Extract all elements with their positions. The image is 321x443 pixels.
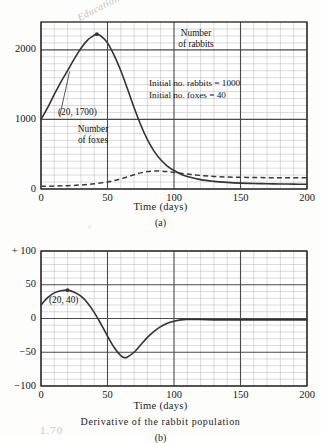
y-tick-label: 2000: [0, 43, 36, 54]
y-tick-label: −50: [0, 346, 36, 357]
rabbit-peak-point-label: (20, 1700): [58, 107, 97, 118]
y-tick-label: + 100: [0, 245, 36, 256]
plot-area-b: (20, 40): [41, 251, 307, 386]
x-tick-label: 100: [154, 389, 194, 400]
x-axis-title-a: Time (days): [0, 201, 321, 212]
x-axis-title-b: Time (days): [0, 400, 321, 411]
figure-b-caption: Derivative of the rabbit population: [0, 416, 321, 427]
curves-b: [41, 251, 307, 386]
initial-conditions-label: Initial no. rabbits = 1000 Initial no. f…: [149, 78, 240, 101]
plot-area-a: Number of rabbits Number of foxes Initia…: [41, 22, 307, 189]
figure-a: Number of rabbits Number of foxes Initia…: [0, 14, 321, 219]
x-tick-label: 0: [21, 389, 61, 400]
panel-label-a: (a): [0, 217, 321, 228]
x-tick-label: 50: [88, 389, 128, 400]
y-tick-label: 0: [0, 312, 36, 323]
x-tick-label: 200: [287, 389, 321, 400]
y-tick-label: 1000: [0, 113, 36, 124]
x-tick-label: 150: [221, 389, 261, 400]
derivative-point-label: (20, 40): [49, 295, 78, 306]
y-tick-label: 50: [0, 278, 36, 289]
panel-label-b: (b): [0, 432, 321, 443]
foxes-curve-label: Number of foxes: [61, 124, 125, 146]
rabbits-curve-label: Number of rabbits: [159, 28, 233, 50]
figure-b: (20, 40) −100−50050+ 100 050100150200 Ti…: [0, 232, 321, 437]
